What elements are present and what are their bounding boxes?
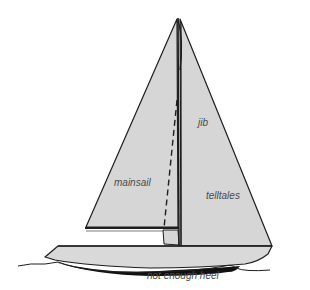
sailboat-illustration [0, 0, 310, 290]
hull [45, 246, 272, 268]
mainsail-label: mainsail [114, 178, 151, 188]
jib-label: jib [198, 118, 208, 128]
caption-not-enough-heel: not enough heel [147, 271, 219, 281]
mast [178, 18, 179, 246]
jib-shape [180, 19, 272, 246]
mainsail-foot-block [163, 230, 179, 245]
telltales-label: telltales [206, 191, 240, 201]
mainsail-shape [86, 19, 178, 227]
